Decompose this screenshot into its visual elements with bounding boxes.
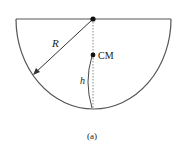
caption: (a) <box>87 131 97 141</box>
radius-label: R <box>51 37 59 49</box>
height-arc <box>88 56 92 108</box>
radius-arrow <box>35 19 93 73</box>
semicircle-diagram: R CM h (a) <box>0 0 192 153</box>
height-label: h <box>80 75 85 86</box>
cm-label: CM <box>98 50 114 61</box>
pivot-dot <box>90 16 95 21</box>
cm-dot <box>91 53 96 58</box>
